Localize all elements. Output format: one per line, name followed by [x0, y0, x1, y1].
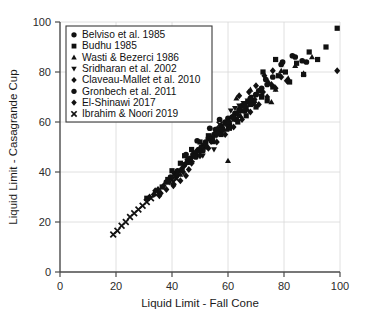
data-point [259, 85, 265, 91]
y-tick-label: 60 [39, 116, 51, 128]
legend-item-7[interactable]: Ibrahim & Noori 2019 [71, 108, 178, 119]
data-point [244, 113, 249, 118]
data-point [169, 168, 174, 173]
data-point [273, 57, 278, 62]
data-point [194, 138, 200, 144]
data-point [280, 59, 286, 65]
data-point [309, 54, 315, 59]
y-tick-label: 40 [39, 166, 51, 178]
data-point [248, 97, 254, 103]
data-point [315, 57, 320, 62]
scatter-chart-figure: 020406080100020406080100 Liquid Limit - … [0, 0, 370, 330]
data-point [207, 125, 213, 131]
y-tick-label: 80 [39, 66, 51, 78]
data-point [334, 67, 340, 74]
data-point [253, 92, 259, 98]
data-point [225, 158, 231, 163]
legend-item-0[interactable]: Belviso et al. 1985 [71, 29, 165, 40]
data-point [236, 108, 242, 114]
data-point [183, 152, 189, 158]
legend-item-2[interactable]: Wasti & Bezerci 1986 [71, 52, 179, 63]
legend-item-3[interactable]: Sridharan et al. 2002 [71, 63, 177, 74]
legend-label: El-Shinawi 2017 [82, 97, 156, 108]
x-tick-label: 20 [110, 280, 122, 292]
legend-marker-square-icon [72, 44, 77, 49]
legend-label: Ibrahim & Noori 2019 [82, 108, 179, 119]
legend-item-1[interactable]: Budhu 1985 [72, 40, 138, 51]
y-tick-label: 100 [33, 16, 51, 28]
y-axis-title: Liquid Limit - Casagrande Cup [7, 69, 19, 224]
legend-label: Sridharan et al. 2002 [82, 63, 177, 74]
x-tick-label: 100 [331, 280, 349, 292]
legend-label: Claveau-Mallet et al. 2010 [82, 74, 201, 85]
plot-svg: 020406080100020406080100 Liquid Limit - … [0, 0, 370, 330]
data-point [225, 119, 231, 125]
data-point [323, 44, 328, 49]
legend-label: Belviso et al. 1985 [82, 29, 166, 40]
x-tick-label: 40 [166, 280, 178, 292]
y-tick-label: 0 [45, 266, 51, 278]
x-tick-label: 60 [222, 280, 234, 292]
legend-label: Wasti & Bezerci 1986 [82, 52, 179, 63]
legend-item-5[interactable]: Gronbech et al. 2011 [71, 86, 176, 97]
data-point [290, 53, 296, 59]
data-point [264, 82, 270, 88]
x-tick-label: 0 [57, 280, 63, 292]
data-point [231, 114, 237, 120]
data-point [214, 130, 220, 136]
legend-marker-circle-icon [71, 89, 76, 94]
legend-marker-circle-icon [71, 32, 76, 37]
data-point [270, 67, 276, 74]
legend-label: Gronbech et al. 2011 [82, 86, 177, 97]
x-tick-label: 80 [278, 280, 290, 292]
data-point [211, 147, 217, 152]
data-point [242, 103, 248, 109]
y-tick-label: 20 [39, 216, 51, 228]
legend-item-4[interactable]: Claveau-Mallet et al. 2010 [71, 74, 200, 85]
data-point [299, 58, 305, 64]
legend-label: Budhu 1985 [82, 40, 137, 51]
x-axis-title: Liquid Limit - Fall Cone [141, 297, 259, 309]
data-point [335, 26, 340, 31]
data-point [307, 49, 312, 54]
data-point [270, 74, 276, 80]
legend-item-6[interactable]: El-Shinawi 2017 [71, 97, 156, 108]
legend: Belviso et al. 1985Budhu 1985Wasti & Bez… [66, 26, 212, 122]
